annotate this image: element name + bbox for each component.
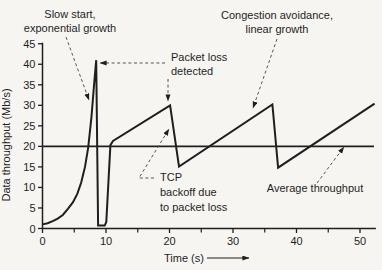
y-tick-label: 35 <box>23 79 35 91</box>
annotation-slow-start: Slow start,exponential growth <box>24 8 116 34</box>
y-tick-label: 5 <box>29 202 35 214</box>
y-tick-label: 20 <box>23 140 35 152</box>
y-tick-label: 40 <box>23 58 35 70</box>
y-tick-label: 15 <box>23 161 35 173</box>
annotation-arrow-average-throughput <box>317 147 344 183</box>
tcp-throughput-figure: 05101520253035404501020304050Data throug… <box>0 0 382 270</box>
annotation-tcp-backoff: TCPbackoff dueto packet loss <box>160 171 228 213</box>
x-tick-label: 40 <box>290 235 302 247</box>
x-tick-label: 20 <box>163 235 175 247</box>
y-axis-title: Data throughput (Mb/s) <box>0 88 12 201</box>
annotation-average-throughput: Average throughput <box>267 182 363 194</box>
annotation-arrow-congestion-avoidance <box>253 39 277 108</box>
x-tick-label: 50 <box>354 235 366 247</box>
x-tick-label: 10 <box>100 235 112 247</box>
annotation-arrow-slow-start <box>66 37 89 100</box>
x-axis-title: Time (s) <box>164 252 204 264</box>
y-tick-label: 25 <box>23 120 35 132</box>
annotation-congestion-avoidance: Congestion avoidance,linear growth <box>221 9 333 35</box>
chart-canvas: 05101520253035404501020304050Data throug… <box>0 0 382 270</box>
x-tick-label: 30 <box>227 235 239 247</box>
annotation-packet-loss-detected: Packet lossdetected <box>171 51 228 77</box>
y-tick-label: 45 <box>23 38 35 50</box>
x-tick-label: 0 <box>39 235 45 247</box>
annotations: Slow start,exponential growthPacket loss… <box>24 8 363 213</box>
y-tick-label: 30 <box>23 99 35 111</box>
y-tick-label: 10 <box>23 181 35 193</box>
y-tick-label: 0 <box>29 223 35 235</box>
